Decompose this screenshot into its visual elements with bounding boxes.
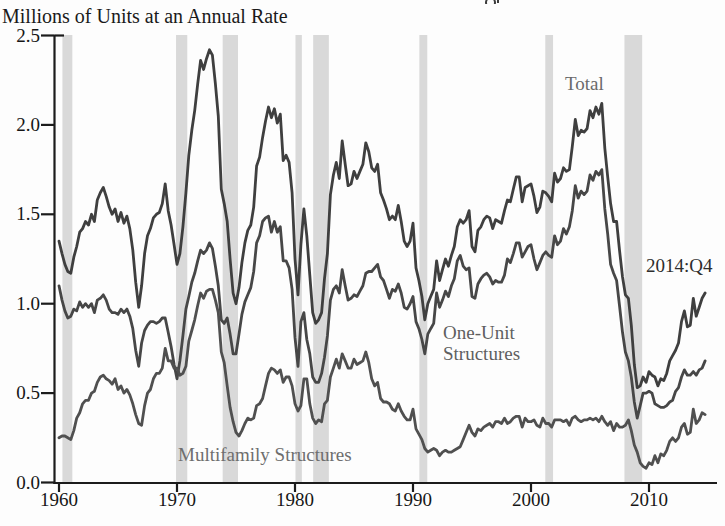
- x-tick-label-2000: 2000: [499, 489, 563, 511]
- one-unit-line: [59, 170, 705, 419]
- multifamily-line: [59, 289, 705, 468]
- chart-canvas: [0, 0, 725, 526]
- recession-band: [545, 35, 553, 483]
- end-point-label: 2014:Q4: [646, 255, 713, 276]
- y-tick-label-2.5: 2.5: [0, 25, 40, 47]
- x-tick-label-1990: 1990: [381, 489, 445, 511]
- y-tick-label-2.0: 2.0: [0, 114, 40, 136]
- y-tick-label-1.0: 1.0: [0, 293, 40, 315]
- recession-band: [419, 35, 427, 483]
- series-label-one-unit-line2: Structures: [443, 343, 520, 364]
- recession-band: [624, 35, 642, 483]
- x-tick-label-1960: 1960: [27, 489, 91, 511]
- series-label-total: Total: [565, 73, 604, 94]
- x-tick-label-1970: 1970: [145, 489, 209, 511]
- series-label-one-unit: One-Unit Structures: [443, 322, 520, 364]
- total-line: [59, 50, 705, 388]
- series-label-multifamily: Multifamily Structures: [178, 444, 352, 465]
- y-tick-label-0.5: 0.5: [0, 382, 40, 404]
- y-tick-label-1.5: 1.5: [0, 203, 40, 225]
- x-tick-label-2010: 2010: [617, 489, 681, 511]
- series-label-one-unit-line1: One-Unit: [443, 322, 515, 343]
- x-tick-label-1980: 1980: [263, 489, 327, 511]
- housing-starts-chart: Millions of Units at an Annual Rate Tota…: [0, 0, 725, 526]
